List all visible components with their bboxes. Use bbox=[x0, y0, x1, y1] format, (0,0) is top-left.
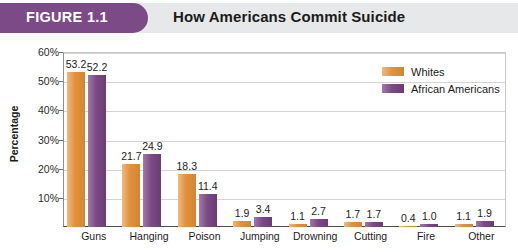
bar[interactable] bbox=[420, 224, 438, 227]
y-axis-tick-label: 20% bbox=[25, 163, 59, 175]
figure-number-label: FIGURE 1.1 bbox=[26, 9, 108, 25]
bar[interactable] bbox=[289, 224, 307, 227]
bar[interactable] bbox=[310, 219, 328, 227]
y-axis-tick-mark bbox=[59, 52, 63, 53]
y-axis-tick-mark bbox=[59, 198, 63, 199]
bar[interactable] bbox=[254, 217, 272, 227]
bar[interactable] bbox=[476, 221, 494, 227]
x-axis-tick-label: Other bbox=[446, 230, 516, 242]
y-axis-tick-mark bbox=[59, 169, 63, 170]
y-axis-tick-mark bbox=[59, 81, 63, 82]
bar-group: 18.311.4 bbox=[174, 52, 229, 227]
bar[interactable] bbox=[143, 154, 161, 227]
bar-group: 53.252.2 bbox=[63, 52, 118, 227]
bar-value-label: 2.7 bbox=[302, 205, 336, 217]
legend-color-swatch bbox=[382, 84, 404, 93]
bar-value-label: 1.7 bbox=[357, 208, 391, 220]
legend-item[interactable]: Whites bbox=[382, 64, 512, 79]
chart-legend: WhitesAfrican Americans bbox=[382, 64, 512, 98]
bar-value-label: 1.9 bbox=[468, 207, 502, 219]
bar[interactable] bbox=[88, 75, 106, 227]
y-axis-tick-mark bbox=[59, 110, 63, 111]
bar[interactable] bbox=[67, 72, 85, 227]
bar[interactable] bbox=[199, 194, 217, 227]
y-axis-tick-label: 30% bbox=[25, 134, 59, 146]
legend-label: African Americans bbox=[411, 83, 500, 95]
y-axis-title: Percentage bbox=[8, 89, 20, 179]
y-axis-tick-mark bbox=[59, 140, 63, 141]
bar-value-label: 24.9 bbox=[135, 140, 169, 152]
bar-group: 1.12.7 bbox=[285, 52, 340, 227]
bar[interactable] bbox=[365, 222, 383, 227]
bar[interactable] bbox=[344, 222, 362, 227]
bar-group: 1.93.4 bbox=[229, 52, 284, 227]
y-axis-tick-label: 60% bbox=[25, 46, 59, 58]
legend-item[interactable]: African Americans bbox=[382, 81, 512, 96]
y-axis-tick-labels: 10%20%30%40%50%60% bbox=[21, 33, 59, 252]
legend-color-swatch bbox=[382, 67, 404, 76]
x-axis-tick-labels: GunsHangingPoisonJumpingDrowningCuttingF… bbox=[63, 230, 506, 250]
y-axis-tick-label: 40% bbox=[25, 104, 59, 116]
bar-value-label: 1.0 bbox=[412, 210, 446, 222]
bar-chart: 10%20%30%40%50%60% Percentage 53.252.221… bbox=[0, 33, 518, 252]
bar-value-label: 52.2 bbox=[80, 61, 114, 73]
y-axis-tick-label: 50% bbox=[25, 75, 59, 87]
bar-value-label: 3.4 bbox=[246, 203, 280, 215]
bar[interactable] bbox=[122, 164, 140, 227]
figure-number-badge: FIGURE 1.1 bbox=[0, 3, 148, 33]
bar[interactable] bbox=[455, 224, 473, 227]
bar[interactable] bbox=[233, 221, 251, 227]
bar-value-label: 18.3 bbox=[170, 160, 204, 172]
bar[interactable] bbox=[399, 226, 417, 227]
figure-title: How Americans Commit Suicide bbox=[173, 8, 405, 25]
legend-label: Whites bbox=[411, 66, 445, 78]
bar-group: 21.724.9 bbox=[118, 52, 173, 227]
y-axis-tick-label: 10% bbox=[25, 192, 59, 204]
bar-value-label: 11.4 bbox=[191, 180, 225, 192]
